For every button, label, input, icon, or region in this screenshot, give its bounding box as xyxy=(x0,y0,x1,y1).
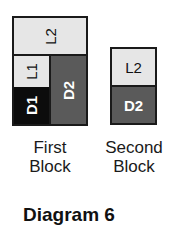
first-block-l1-label: L1 xyxy=(24,63,39,80)
first-block: L2 L1 D1 D2 xyxy=(12,16,88,126)
first-block-d2-label: D2 xyxy=(61,80,76,99)
second-block-caption: Second Block xyxy=(90,138,178,176)
first-block-l2-label: L2 xyxy=(43,28,58,45)
second-block: L2 D2 xyxy=(110,47,157,125)
second-caption-line1: Second xyxy=(90,138,178,157)
first-caption-line2: Block xyxy=(8,157,92,176)
first-block-d1-label: D1 xyxy=(24,96,39,115)
first-block-l1-cell: L1 xyxy=(14,56,51,87)
first-block-caption: First Block xyxy=(8,138,92,176)
second-block-d2-label: D2 xyxy=(124,98,143,113)
diagram-title: Diagram 6 xyxy=(23,204,115,226)
second-block-d2-cell: D2 xyxy=(112,87,155,123)
second-caption-line2: Block xyxy=(90,157,178,176)
first-block-d1-cell: D1 xyxy=(14,87,51,124)
first-caption-line1: First xyxy=(8,138,92,157)
second-block-l2-label: L2 xyxy=(125,60,142,75)
first-block-l2-cell: L2 xyxy=(14,18,86,56)
first-block-d2-cell: D2 xyxy=(51,56,86,124)
second-block-l2-cell: L2 xyxy=(112,49,155,87)
